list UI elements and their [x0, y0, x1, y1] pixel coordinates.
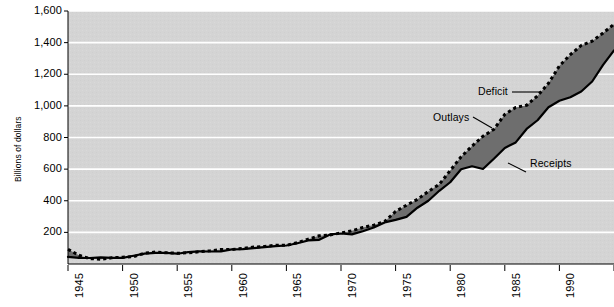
x-tick-label: 1960: [237, 273, 249, 298]
x-tick-label: 1990: [564, 273, 576, 298]
y-tick-label: 600: [26, 162, 62, 174]
y-tick-label: 200: [26, 225, 62, 237]
x-tick-label: 1985: [510, 273, 522, 298]
annotation-outlays: Outlays: [433, 111, 469, 123]
y-tick-label: 400: [26, 194, 62, 206]
x-tick-label: 1950: [128, 273, 140, 298]
x-tick-label: 1975: [401, 273, 413, 298]
budget-chart: Billions of dollars 1,6001,4001,2001,000…: [0, 0, 614, 307]
x-tick-label: 1945: [73, 273, 85, 298]
x-tick-label: 1970: [346, 273, 358, 298]
y-tick-label: 1,600: [26, 4, 62, 16]
annotation-receipts: Receipts: [530, 157, 572, 169]
y-tick-label: 1,000: [26, 99, 62, 111]
y-tick-label: 800: [26, 131, 62, 143]
x-tick-label: 1980: [455, 273, 467, 298]
plot-area: [0, 0, 614, 307]
x-tick-label: 1955: [182, 273, 194, 298]
y-tick-label: 1,200: [26, 67, 62, 79]
annotation-deficit: Deficit: [478, 85, 508, 97]
x-tick-label: 1965: [291, 273, 303, 298]
y-tick-label: 1,400: [26, 36, 62, 48]
